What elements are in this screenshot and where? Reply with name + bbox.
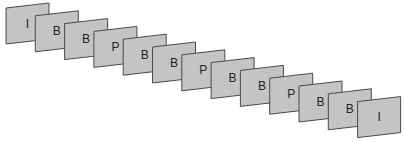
frame-type-label: I xyxy=(26,17,29,31)
frame-sequence-diagram: IBBPBBPBBPBBI xyxy=(0,0,405,142)
frame-type-label: P xyxy=(287,87,295,101)
frame-type-label: B xyxy=(258,79,266,93)
frame-type-label: P xyxy=(199,63,207,77)
frame-type-label: B xyxy=(316,95,324,109)
frame-type-label: B xyxy=(53,24,61,38)
frame-type-label: B xyxy=(82,32,90,46)
frame-type-label: B xyxy=(346,102,354,116)
frame-13: I xyxy=(358,97,401,138)
frame-type-label: B xyxy=(229,71,237,85)
frame-type-label: P xyxy=(111,40,119,54)
frame-type-label: I xyxy=(377,110,380,124)
frame-type-label: B xyxy=(141,48,149,62)
frame-type-label: B xyxy=(170,56,178,70)
